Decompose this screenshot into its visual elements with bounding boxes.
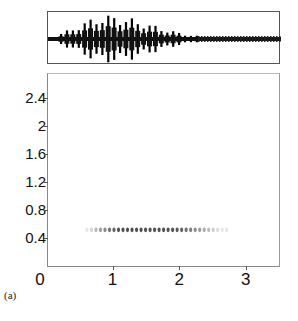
y-tick-label: 2 xyxy=(6,118,46,134)
x-tick-label: 2 xyxy=(169,270,189,290)
figure-caption: (a) xyxy=(4,289,16,301)
x-tick-mark xyxy=(179,266,180,270)
y-tick-label: 1.6 xyxy=(6,146,46,162)
x-tick-label: 1 xyxy=(103,270,123,290)
y-tick-label: 1.2 xyxy=(6,174,46,190)
y-tick-label: 0.4 xyxy=(6,230,46,246)
y-tick-mark xyxy=(44,98,48,99)
y-tick-mark xyxy=(44,126,48,127)
x-tick-mark xyxy=(113,266,114,270)
y-tick-mark xyxy=(44,154,48,155)
x-tick-mark xyxy=(246,266,247,270)
y-tick-mark xyxy=(44,182,48,183)
y-tick-mark xyxy=(44,210,48,211)
y-tick-label: 2.4 xyxy=(6,90,46,106)
spectrogram-plot xyxy=(47,73,280,267)
y-tick-mark xyxy=(44,238,48,239)
y-tick-label: 0.8 xyxy=(6,202,46,218)
x-tick-label: 3 xyxy=(236,270,256,290)
spectral-band xyxy=(48,74,281,268)
x-tick-label: 0 xyxy=(30,270,50,290)
waveform-trace xyxy=(48,12,281,65)
waveform-panel xyxy=(47,11,280,64)
